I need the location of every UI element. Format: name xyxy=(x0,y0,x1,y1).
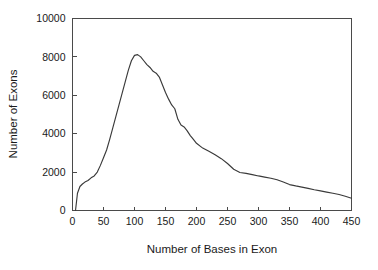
x-axis-title: Number of Bases in Exon xyxy=(147,243,277,255)
x-tick-label: 300 xyxy=(250,215,268,227)
x-axis-tick-marks xyxy=(73,207,352,211)
y-tick-label: 10000 xyxy=(36,12,65,24)
x-tick-label: 350 xyxy=(281,215,299,227)
x-axis-tick-labels: 050100150200250300350400450 xyxy=(70,215,361,227)
x-tick-label: 400 xyxy=(312,215,330,227)
y-tick-label: 2000 xyxy=(42,166,66,178)
y-tick-label: 8000 xyxy=(42,51,66,63)
plot-frame xyxy=(73,19,352,211)
x-tick-label: 150 xyxy=(157,215,175,227)
line-chart-canvas: 0200040006000800010000 05010015020025030… xyxy=(0,0,378,270)
y-tick-label: 4000 xyxy=(42,127,66,139)
x-tick-label: 50 xyxy=(98,215,110,227)
data-curve-exon-length xyxy=(76,55,352,211)
y-axis-tick-labels: 0200040006000800010000 xyxy=(36,12,65,216)
y-tick-label: 0 xyxy=(60,204,66,216)
x-tick-label: 450 xyxy=(343,215,361,227)
chart-figure: 0200040006000800010000 05010015020025030… xyxy=(0,0,378,270)
y-tick-label: 6000 xyxy=(42,89,66,101)
y-axis-tick-marks xyxy=(73,19,77,211)
x-tick-label: 100 xyxy=(126,215,144,227)
y-axis-title: Number of Exons xyxy=(7,69,19,158)
x-tick-label: 200 xyxy=(188,215,206,227)
x-tick-label: 250 xyxy=(219,215,237,227)
x-tick-label: 0 xyxy=(70,215,76,227)
